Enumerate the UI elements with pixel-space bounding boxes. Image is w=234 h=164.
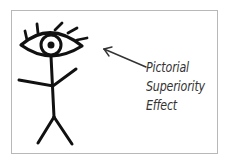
label-line-1: Pictorial xyxy=(146,58,205,77)
pictorial-superiority-label: Pictorial Superiority Effect xyxy=(146,58,205,115)
eye-head-icon xyxy=(21,23,87,56)
stick-body-icon xyxy=(19,56,76,144)
label-line-3: Effect xyxy=(146,96,205,115)
label-line-2: Superiority xyxy=(146,77,205,96)
arrow-icon xyxy=(104,47,146,67)
